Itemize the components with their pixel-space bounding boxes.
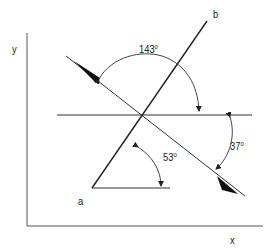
point-b-label: b [213,9,218,20]
angle-143-label: 143o [139,44,158,55]
angle-53-label: 53o [163,152,177,163]
diagram-canvas [0,0,271,252]
point-a-label: a [78,196,83,207]
arrowhead-upper-icon [74,61,100,83]
arc-143 [99,54,199,111]
y-axis-label: y [12,44,17,55]
arc-53 [138,147,161,186]
angle-37-label: 37o [230,141,244,152]
x-axis-label: x [230,235,235,246]
